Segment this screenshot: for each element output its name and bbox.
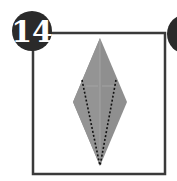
step-diagram: 14: [0, 0, 177, 181]
step-badge: 14: [11, 11, 53, 51]
next-step-badge: [167, 14, 177, 54]
folded-paper: [73, 38, 127, 166]
step-number: 14: [11, 14, 53, 49]
